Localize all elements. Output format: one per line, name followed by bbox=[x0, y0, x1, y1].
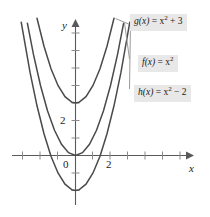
function-label-f: f(x) = x2 bbox=[138, 55, 178, 72]
function-label-h-tail: − 2 bbox=[172, 87, 187, 97]
y-axis-label: y bbox=[62, 20, 67, 31]
function-label-f-lead: = x bbox=[155, 57, 170, 67]
function-label-f-exponent: 2 bbox=[170, 55, 174, 63]
parabola-transformations-figure: y x 0 2 2 g(x) = x2 + 3 f(x) = x2 h(x) =… bbox=[0, 0, 210, 217]
function-label-f-name: f(x) bbox=[142, 57, 155, 67]
leader-line-h bbox=[130, 23, 131, 90]
function-label-h-name: h(x) bbox=[138, 87, 153, 97]
origin-label: 0 bbox=[63, 159, 69, 170]
y-axis bbox=[72, 19, 80, 205]
function-label-g-tail: + 3 bbox=[168, 16, 183, 26]
function-label-g: g(x) = x2 + 3 bbox=[130, 14, 187, 31]
x-axis-label: x bbox=[189, 163, 194, 174]
plot-canvas bbox=[0, 0, 210, 217]
function-label-g-name: g(x) bbox=[134, 16, 149, 26]
y-tick-label-2: 2 bbox=[60, 115, 66, 126]
function-label-g-lead: = x bbox=[149, 16, 164, 26]
function-label-h-lead: = x bbox=[153, 87, 168, 97]
x-axis bbox=[12, 152, 194, 160]
leader-line-g bbox=[116, 19, 129, 25]
function-label-h: h(x) = x2 − 2 bbox=[134, 85, 191, 102]
x-tick-label-2: 2 bbox=[106, 159, 112, 170]
